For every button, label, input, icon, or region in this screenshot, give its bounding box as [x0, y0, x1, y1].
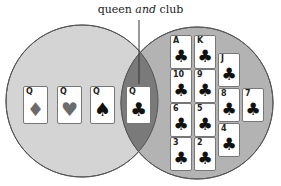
- club-icon: ♣: [195, 148, 215, 168]
- card-rank: 9: [197, 70, 203, 79]
- card-queen-spades: Q ♠: [90, 86, 115, 124]
- card-10-clubs: 10 ♣: [170, 69, 192, 103]
- card-9-clubs: 9 ♣: [194, 69, 216, 103]
- card-2-clubs: 2 ♣: [194, 137, 216, 171]
- card-ace-clubs: A ♣: [170, 35, 192, 69]
- card-rank: 3: [173, 138, 179, 147]
- heart-icon: ♥: [58, 99, 81, 119]
- card-rank: J: [221, 54, 224, 63]
- card-queen-clubs: Q ♣: [126, 86, 151, 124]
- card-6-clubs: 6 ♣: [170, 103, 192, 137]
- card-rank: 5: [197, 104, 203, 113]
- spade-icon: ♠: [91, 99, 114, 119]
- card-rank: 8: [221, 89, 227, 98]
- card-rank: 10: [173, 70, 184, 79]
- card-queen-hearts: Q ♥: [57, 86, 82, 124]
- club-icon: ♣: [195, 80, 215, 100]
- card-rank: Q: [129, 87, 136, 96]
- club-icon: ♣: [219, 134, 239, 154]
- card-7-clubs: 7 ♣: [242, 88, 264, 122]
- card-rank: 7: [245, 89, 251, 98]
- card-rank: K: [197, 36, 203, 45]
- card-rank: 2: [197, 138, 203, 147]
- club-icon: ♣: [127, 99, 150, 119]
- card-4-clubs: 4 ♣: [218, 123, 240, 157]
- card-rank: Q: [93, 87, 100, 96]
- card-rank: 4: [221, 124, 227, 133]
- card-rank: 6: [173, 104, 179, 113]
- club-icon: ♣: [171, 46, 191, 66]
- club-icon: ♣: [219, 99, 239, 119]
- card-queen-diamonds: Q ♦: [23, 86, 48, 124]
- card-rank: Q: [60, 87, 67, 96]
- card-king-clubs: K ♣: [194, 35, 216, 69]
- club-icon: ♣: [171, 148, 191, 168]
- card-8-clubs: 8 ♣: [218, 88, 240, 122]
- card-jack-clubs: J ♣: [218, 53, 240, 87]
- club-icon: ♣: [243, 99, 263, 119]
- club-icon: ♣: [171, 80, 191, 100]
- card-5-clubs: 5 ♣: [194, 103, 216, 137]
- club-icon: ♣: [219, 64, 239, 84]
- club-icon: ♣: [171, 114, 191, 134]
- card-rank: A: [173, 36, 179, 45]
- club-icon: ♣: [195, 46, 215, 66]
- diamond-icon: ♦: [24, 99, 47, 119]
- intersection-label: queen and club: [0, 3, 281, 16]
- club-icon: ♣: [195, 114, 215, 134]
- card-3-clubs: 3 ♣: [170, 137, 192, 171]
- card-rank: Q: [26, 87, 33, 96]
